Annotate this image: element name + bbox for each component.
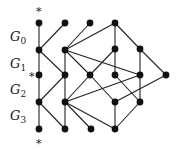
star-marker-0: * [36,5,42,18]
star-marker-2: * [36,137,42,150]
node-c5 [137,72,144,79]
layer-label-g2: G2 [10,82,26,99]
edge-d2-e3 [65,102,91,129]
edge-a4-b2 [65,23,115,50]
node-d2 [62,99,69,106]
layered-graph-diagram: G0G1G2G3 *** [0,0,181,154]
edge-a4-b4 [115,23,140,49]
node-a3 [87,20,94,27]
edge-b4-c6 [140,49,166,75]
node-e1 [36,126,43,133]
edge-d2-e4 [65,102,115,129]
node-a4 [112,20,119,27]
edge-a3-b2 [65,23,90,50]
node-c2 [62,72,69,79]
edge-b1-c2 [39,50,65,75]
layer-label-g3: G3 [10,108,26,125]
node-e2 [62,126,69,133]
node-d3 [112,99,119,106]
node-b1 [36,47,43,54]
node-b2 [62,47,69,54]
node-c3 [87,72,94,79]
node-a1 [36,20,43,27]
node-e3 [88,126,95,133]
layer-labels: G0G1G2G3 [10,29,26,125]
node-b3 [112,46,119,53]
graph-edges [39,23,166,129]
node-b4 [137,46,144,53]
layer-label-g0: G0 [10,29,26,46]
edge-d4-e4 [115,102,140,129]
star-marker-1: * [29,70,35,83]
edge-a2-b1 [39,23,65,50]
graph-nodes [36,20,170,133]
node-c4 [112,72,119,79]
edge-d1-e2 [39,102,65,129]
edge-c5-d2 [65,75,140,102]
node-c1 [36,72,43,79]
node-d4 [137,99,144,106]
node-c6 [163,72,170,79]
node-d1 [36,99,43,106]
edge-b3-c3 [90,49,115,75]
layer-label-g1: G1 [10,56,26,73]
node-a2 [62,20,69,27]
node-e4 [112,126,119,133]
edge-c2-d1 [39,75,65,102]
